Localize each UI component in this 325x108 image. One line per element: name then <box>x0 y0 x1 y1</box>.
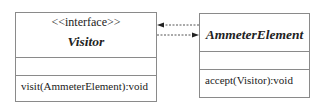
dependency-arrow-to-ammeter-element <box>157 33 199 38</box>
dependency-arrows <box>0 0 325 108</box>
dependency-arrow-to-visitor <box>157 23 199 28</box>
